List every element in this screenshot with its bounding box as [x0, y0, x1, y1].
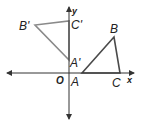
vertex-label-a: A [70, 75, 79, 89]
x-axis-label: x [126, 75, 133, 85]
origin-label: O [56, 75, 64, 86]
triangle-abc [82, 37, 120, 73]
coordinate-diagram: y x O A B C A' B' C' [0, 0, 141, 122]
vertex-label-b: B [110, 22, 118, 36]
y-axis-label: y [71, 6, 78, 16]
vertex-label-c-prime: C' [71, 18, 83, 32]
triangle-image-abc-prime [35, 21, 69, 60]
vertex-label-c: C [112, 76, 121, 90]
vertex-label-b-prime: B' [19, 19, 30, 33]
vertex-label-a-prime: A' [69, 56, 81, 70]
